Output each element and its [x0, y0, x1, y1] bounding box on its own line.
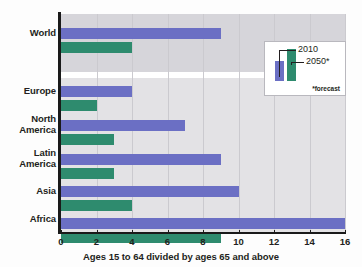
bar-latin-america-2050 [61, 168, 114, 179]
bar-world-2050 [61, 42, 132, 53]
bar-asia-2010 [61, 186, 239, 197]
legend-leader-2010-horizontal [279, 50, 296, 51]
category-label-world: World [0, 28, 56, 39]
bar-europe-2050 [61, 100, 97, 111]
x-tick-mark [61, 230, 62, 234]
x-tick-label: 12 [269, 236, 280, 247]
y-axis-line [58, 12, 61, 234]
x-tick-label: 10 [233, 236, 244, 247]
legend-label-2010: 2010 [298, 44, 318, 54]
x-tick-mark [132, 230, 133, 234]
bar-north-america-2050 [61, 134, 114, 145]
category-label-europe: Europe [0, 86, 56, 97]
x-tick-label: 4 [129, 236, 134, 247]
chart-legend: 2010 2050* *forecast [264, 41, 346, 96]
x-tick-label: 6 [165, 236, 170, 247]
x-tick-mark [168, 230, 169, 234]
legend-footnote: *forecast [312, 85, 340, 92]
x-tick-label: 2 [94, 236, 99, 247]
legend-leader-2050-horizontal [291, 62, 304, 63]
x-tick-mark [274, 230, 275, 234]
x-tick-label: 8 [200, 236, 205, 247]
bar-africa-2010 [61, 218, 345, 229]
x-tick-mark [97, 230, 98, 234]
category-label-latin-america: LatinAmerica [0, 148, 56, 169]
x-tick-label: 0 [58, 236, 63, 247]
gridline [203, 14, 204, 232]
x-tick-mark [345, 230, 346, 234]
bar-north-america-2010 [61, 120, 185, 131]
category-label-asia: Asia [0, 186, 56, 197]
legend-label-2050: 2050* [306, 56, 330, 66]
x-tick-label: 14 [304, 236, 315, 247]
bar-asia-2050 [61, 200, 132, 211]
category-axis-labels: WorldEuropeNorthAmericaLatinAmericaAsiaA… [0, 14, 56, 232]
bar-chart: WorldEuropeNorthAmericaLatinAmericaAsiaA… [0, 0, 362, 267]
legend-leader-2010-vertical [279, 50, 280, 77]
gridline [239, 14, 240, 232]
x-tick-mark [203, 230, 204, 234]
category-label-africa: Africa [0, 214, 56, 225]
x-tick-label: 16 [340, 236, 351, 247]
x-axis-title: Ages 15 to 64 divided by ages 65 and abo… [0, 251, 362, 262]
bar-europe-2010 [61, 86, 132, 97]
legend-swatch-2050 [287, 49, 296, 81]
category-label-north-america: NorthAmerica [0, 114, 56, 135]
bar-latin-america-2010 [61, 154, 221, 165]
x-tick-mark [310, 230, 311, 234]
x-tick-mark [239, 230, 240, 234]
bar-world-2010 [61, 28, 221, 39]
